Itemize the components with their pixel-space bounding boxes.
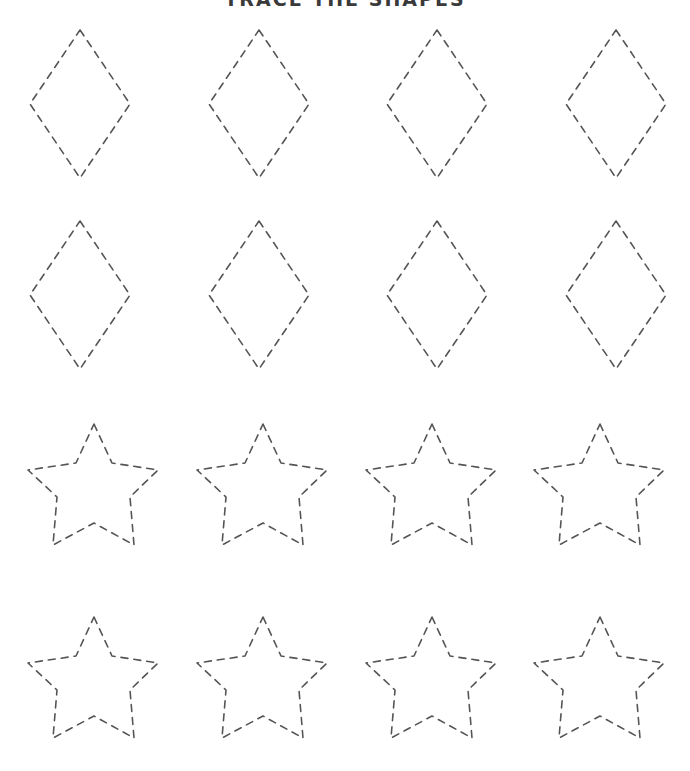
diamond-shape [30,30,130,178]
star-shape [28,617,158,738]
star-row-2 [28,617,664,738]
star-shape [366,424,496,545]
star-shape [28,424,158,545]
diamond-shape [387,221,487,369]
diamond-shape [209,30,309,178]
star-shape [366,617,496,738]
star-shape [534,424,664,545]
diamond-row-2 [30,221,666,369]
diamond-shape [30,221,130,369]
diamond-shape [209,221,309,369]
diamond-row-1 [30,30,666,178]
star-shape [197,424,327,545]
diamond-shape [387,30,487,178]
tracing-sheet [0,0,690,771]
star-row-1 [28,424,664,545]
diamond-shape [566,221,666,369]
star-shape [534,617,664,738]
diamond-shape [566,30,666,178]
star-shape [197,617,327,738]
